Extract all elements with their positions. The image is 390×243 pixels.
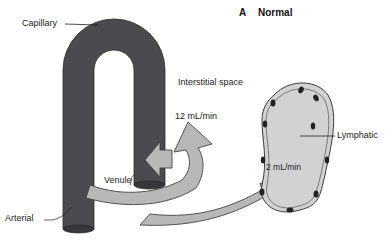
- arterial-end: [63, 225, 94, 233]
- capillary-lymph-diagram: [0, 0, 390, 243]
- interstitial-label: Interstitial space: [178, 78, 243, 87]
- arterial-label: Arterial: [5, 214, 34, 223]
- panel-letter: A: [239, 8, 246, 18]
- venule-end: [134, 181, 165, 189]
- lymph-rate-label: 2 mL/min: [266, 163, 301, 172]
- capillary-label: Capillary: [22, 19, 57, 28]
- lymphatic-label: Lymphatic: [337, 131, 378, 140]
- filtration-rate-label: 12 mL/min: [175, 112, 217, 121]
- venule-label: Venule: [104, 176, 132, 185]
- filtration-flow-arrow: [86, 122, 280, 225]
- lymphatic-vessel: [260, 83, 334, 213]
- panel-title: Normal: [258, 8, 292, 18]
